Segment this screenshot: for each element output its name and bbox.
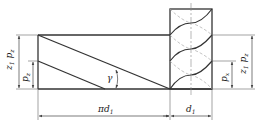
- label-lead-left: z1 pz: [4, 49, 15, 71]
- diagram-canvas: z1 pz pz γ πd1 d1 px z1 pz: [0, 0, 260, 128]
- label-diameter: d1: [186, 104, 196, 115]
- label-pitch-right: px: [219, 72, 230, 82]
- worm-side-view: [170, 3, 212, 95]
- developed-helix-rectangle: [38, 35, 212, 89]
- pitch-line: [38, 61, 105, 89]
- worm-development-diagram: z1 pz pz γ πd1 d1 px z1 pz: [0, 0, 260, 128]
- label-pitch-left: pz: [20, 72, 31, 82]
- svg-text:z1 pz: z1 pz: [238, 53, 249, 75]
- label-lead-angle: γ: [107, 73, 113, 83]
- label-lead-right: z1 pz: [238, 53, 249, 75]
- svg-text:pz: pz: [20, 72, 31, 82]
- lead-line: [38, 35, 170, 89]
- label-circumference: πd1: [97, 104, 114, 115]
- svg-text:z1 pz: z1 pz: [4, 49, 15, 71]
- svg-text:px: px: [219, 72, 230, 82]
- lead-angle-arc: [116, 70, 118, 88]
